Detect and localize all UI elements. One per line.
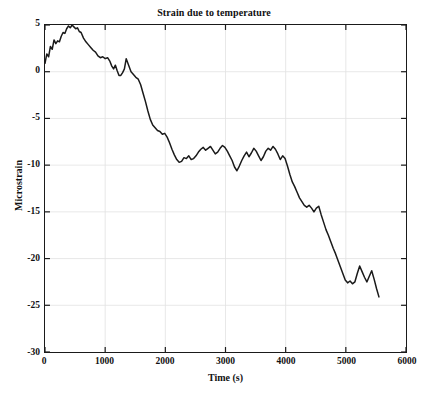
x-tick-label: 6000 [377, 356, 428, 366]
chart-title: Strain due to temperature [0, 7, 428, 18]
x-tick-label: 1000 [75, 356, 135, 366]
x-tick-label: 0 [14, 356, 74, 366]
y-tick-label: -20 [0, 253, 40, 263]
x-tick-label: 3000 [196, 356, 256, 366]
grid-lines [45, 25, 406, 352]
chart-figure: Strain due to temperature 50-5-10-15-20-… [0, 0, 428, 396]
y-axis-label: Microstrain [13, 126, 24, 246]
x-tick-label: 5000 [317, 356, 377, 366]
data-line-strain [45, 25, 379, 297]
x-tick-label: 2000 [135, 356, 195, 366]
y-tick-label: -25 [0, 300, 40, 310]
y-tick-label: 5 [0, 18, 40, 28]
x-axis-label: Time (s) [44, 372, 407, 383]
plot-area [44, 24, 407, 353]
plot-svg [45, 25, 406, 352]
x-tick-label: 4000 [256, 356, 316, 366]
y-tick-label: 0 [0, 65, 40, 75]
y-tick-label: -5 [0, 112, 40, 122]
